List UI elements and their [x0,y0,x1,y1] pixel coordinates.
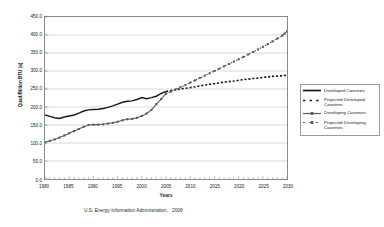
series-marker [78,128,80,130]
series-marker [45,141,46,143]
series-marker [276,38,278,40]
plot-area [44,16,288,180]
series-marker [223,65,225,67]
x-axis-title: Years [44,193,288,199]
legend-swatch-projected-developed [302,97,322,104]
series-marker [107,123,109,125]
legend-item-projected-developed: Projected Developed Countries [302,97,378,108]
series-marker [189,82,191,84]
y-axis-tick-label: 150.0 [8,123,42,128]
series-marker [213,70,215,72]
series-marker [247,53,249,55]
y-axis-tick-label: 100.0 [8,141,42,146]
x-axis-tick-label: 2005 [161,184,171,190]
series-marker [97,124,99,126]
legend-swatch-developing [302,110,322,117]
series-marker [160,98,162,100]
y-axis-tick-label: 300.0 [8,68,42,73]
y-axis-tick-label: 400.0 [8,32,42,37]
series-marker [155,103,157,105]
y-axis-tick-label: 450.0 [8,14,42,19]
x-axis-tick-label: 1990 [88,184,98,190]
series-marker [126,118,128,120]
series-marker [228,63,230,65]
x-axis-tick-label: 1995 [112,184,122,190]
series-line [166,75,287,91]
x-axis-tick-label: 2015 [210,184,220,190]
legend-swatch-developed [302,87,322,94]
series-marker [267,43,269,45]
series-marker [194,79,196,81]
series-marker [131,118,133,120]
legend-item-developed: Developed Countries [302,87,378,94]
legend-label-developing: Developing Countries [324,110,366,116]
y-axis-tick-label: 250.0 [8,86,42,91]
series-marker [73,130,75,132]
series-marker [286,30,287,32]
series-marker [63,134,65,136]
series-lines [45,17,287,179]
series-marker [92,124,94,126]
legend-item-projected-developing: Projected Developing Countries [302,119,378,130]
x-axis-tick-labels: 1980198519901995200020052010201520202025… [44,184,288,192]
series-marker [117,121,119,123]
series-marker [252,51,254,53]
series-marker [257,48,259,50]
x-axis-tick-label: 2000 [136,184,146,190]
x-axis-tick-label: 2020 [234,184,244,190]
series-marker [146,112,148,114]
y-axis-tick-label: 350.0 [8,50,42,55]
series-marker [54,138,56,140]
series-marker [165,93,167,95]
series-line [45,92,166,119]
legend-label-developed: Developed Countries [324,87,365,93]
series-marker [121,119,123,121]
series-marker [88,124,90,126]
series-marker [242,56,244,58]
source-note: U.S. Energy Information Administration, … [84,207,183,214]
series-marker [102,123,104,125]
legend-label-projected-developed: Projected Developed Countries [324,97,378,108]
series-marker [204,75,206,77]
series-marker [58,137,60,139]
x-axis-tick-label: 1980 [39,184,49,190]
series-marker [199,77,201,79]
y-axis-tick-label: 200.0 [8,105,42,110]
series-marker [281,35,283,37]
series-marker [141,115,143,117]
series-marker [238,58,240,60]
series-marker [112,122,114,124]
series-marker [218,68,220,70]
series-marker [170,90,172,92]
legend-item-developing: Developing Countries [302,110,378,117]
series-marker [68,132,70,134]
y-axis-tick-label: 0.0 [8,178,42,183]
series-marker [83,126,85,128]
series-marker [271,40,273,42]
legend-swatch-projected-developing [302,119,322,126]
series-marker [262,46,264,48]
x-axis-tick-label: 1985 [63,184,73,190]
series-marker [184,84,186,86]
series-marker [179,86,181,88]
x-axis-tick-label: 2025 [258,184,268,190]
series-marker [284,33,286,35]
y-axis-tick-label: 50.0 [8,159,42,164]
chart-legend: Developed Countries Projected Developed … [300,84,380,136]
series-marker [136,117,138,119]
series-marker [209,72,211,74]
x-axis-tick-label: 2030 [283,184,293,190]
series-marker [49,140,51,142]
legend-label-projected-developing: Projected Developing Countries [324,119,378,130]
y-axis-title: Quad/Billion BTU (a) [18,25,24,145]
x-axis-tick-label: 2010 [185,184,195,190]
series-marker [150,109,152,111]
series-line [166,31,287,93]
series-marker [175,88,177,90]
chart-screenshot: 450.0400.0350.0300.0250.0200.0150.0100.0… [0,0,384,227]
series-marker [233,61,235,63]
